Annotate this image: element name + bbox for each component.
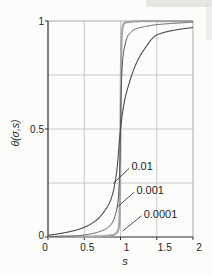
x-tick-label: 1.5 [158, 242, 172, 253]
x-tick-label: 1 [124, 242, 130, 253]
x-tick-label: 0.5 [80, 242, 94, 253]
y-tick-label: 1 [38, 16, 44, 27]
curve-label-0.001: 0.001 [136, 184, 164, 196]
figure-page: 00.511.5200.510.010.0010.0001 θ(σ,s) s [0, 0, 212, 275]
plot-canvas: 00.511.5200.510.010.0010.0001 [0, 0, 212, 275]
y-tick-label: 0 [38, 230, 44, 241]
y-tick-label: 0.5 [30, 124, 44, 135]
annotation-leader-line [123, 216, 142, 231]
curve-label-0.0001: 0.0001 [144, 208, 178, 220]
x-axis-title: s [122, 255, 128, 267]
curve-label-0.01: 0.01 [131, 160, 152, 172]
x-tick-label: 2 [196, 242, 202, 253]
x-tick-label: 0 [42, 242, 48, 253]
y-axis-title: θ(σ,s) [9, 119, 21, 146]
chart: 00.511.5200.510.010.0010.0001 [0, 0, 212, 275]
